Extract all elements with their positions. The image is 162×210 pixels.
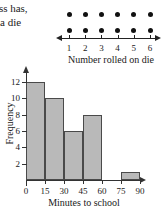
histogram-y-tick (22, 131, 27, 132)
dot-plot: 123456 Number rolled on die (60, 0, 162, 68)
histogram-x-tick-label: 90 (132, 186, 148, 196)
dot-plot-tick (134, 35, 135, 39)
histogram-x-tick-label: 45 (75, 186, 91, 196)
dot-plot-dot (148, 28, 153, 33)
dot-plot-tick-label: 5 (128, 43, 140, 53)
histogram-x-tick-label: 15 (37, 186, 53, 196)
dot-plot-tick (150, 35, 151, 39)
histogram-x-tick-label: 75 (113, 186, 129, 196)
histogram-y-tick-label: 12 (6, 78, 20, 87)
histogram-x-tick (83, 180, 84, 184)
dot-plot-tick-label: 3 (95, 43, 107, 53)
histogram-y-tick (22, 115, 27, 116)
dot-plot-tick-label: 1 (63, 43, 75, 53)
dot-plot-dot (115, 28, 120, 33)
dot-plot-tick (118, 35, 119, 39)
histogram-x-tick (45, 180, 46, 184)
axis-arrow-right-icon (155, 35, 161, 41)
histogram-bar (45, 98, 64, 180)
caption-line-1: ass has, (0, 2, 28, 14)
dot-plot-dot (83, 28, 88, 33)
histogram-bar (83, 115, 102, 180)
histogram-bar (26, 82, 45, 180)
dot-plot-dot (131, 12, 136, 17)
dot-plot-dot (67, 28, 72, 33)
dot-plot-dot (67, 12, 72, 17)
dot-plot-x-axis-title: Number rolled on die (60, 54, 162, 66)
histogram-bar (121, 172, 140, 180)
histogram-x-tick-label: 30 (56, 186, 72, 196)
axis-arrow-left-icon (56, 35, 62, 41)
histogram-x-tick (64, 180, 65, 184)
dot-plot-tick (69, 35, 70, 39)
dot-plot-dot (131, 28, 136, 33)
dot-plot-tick-label: 6 (144, 43, 156, 53)
histogram-x-tick (140, 180, 141, 184)
histogram-x-tick-label: 60 (94, 186, 110, 196)
dot-plot-dot (115, 12, 120, 17)
histogram-y-axis-title: Frequency (4, 93, 15, 155)
histogram-x-axis-title: Minutes to school (14, 197, 154, 209)
histogram-y-tick (22, 164, 27, 165)
dot-plot-dot (83, 12, 88, 17)
dot-plot-tick-label: 4 (112, 43, 124, 53)
histogram-y-tick-label: 2 (6, 160, 20, 169)
dot-plot-tick-label: 2 (79, 43, 91, 53)
caption-text: ass has, a die (0, 1, 56, 29)
histogram-x-tick (102, 180, 103, 184)
dot-plot-tick (101, 35, 102, 39)
histogram-y-tick (22, 82, 27, 83)
caption-line-2: a die (0, 15, 56, 29)
histogram-x-tick-label: 0 (18, 186, 34, 196)
dot-plot-dot (148, 12, 153, 17)
histogram-y-tick (22, 147, 27, 148)
histogram: 24681012 0153045607590 Minutes to school… (0, 66, 162, 210)
histogram-bar (64, 131, 83, 180)
axis-arrow-up-icon (23, 66, 29, 73)
figure-canvas: ass has, a die 123456 Number rolled on d… (0, 0, 162, 210)
dot-plot-tick (85, 35, 86, 39)
dot-plot-axis-line (60, 38, 159, 39)
dot-plot-dot (99, 28, 104, 33)
histogram-y-tick (22, 98, 27, 99)
dot-plot-dot (99, 12, 104, 17)
histogram-x-tick (121, 180, 122, 184)
